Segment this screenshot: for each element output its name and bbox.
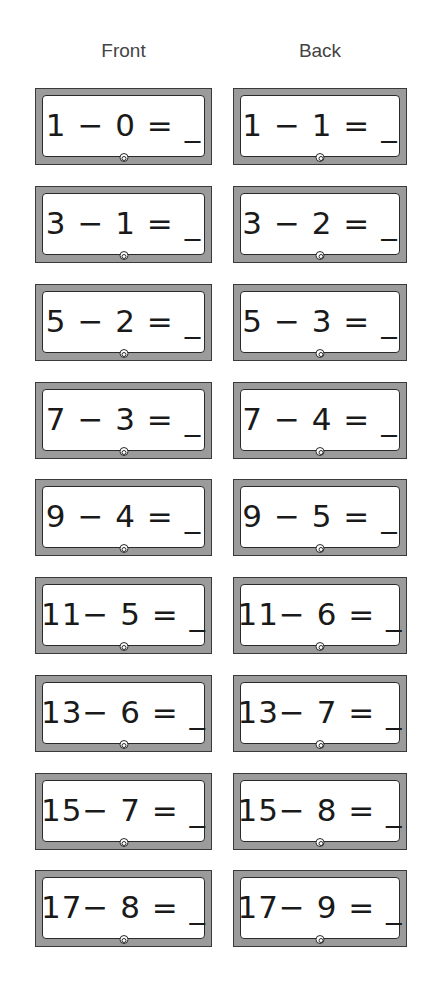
subtraction-equation: 3 − 1 = _ <box>46 205 201 241</box>
subtraction-equation: 1 − 0 = _ <box>46 107 201 143</box>
flashcard-face: 5 − 2 = _ <box>42 291 205 353</box>
flashcard-back: 7 − 4 = _ <box>233 382 407 459</box>
back-column-header: Back <box>233 40 407 62</box>
hole-punch-icon <box>316 838 325 847</box>
flashcard-back: 13− 7 = _ <box>233 675 407 752</box>
flashcard-face: 11− 5 = _ <box>42 584 205 646</box>
subtraction-equation: 11− 5 = _ <box>41 596 206 632</box>
flashcard-face: 3 − 1 = _ <box>42 193 205 255</box>
hole-punch-icon <box>119 642 128 651</box>
flashcard-back: 15− 8 = _ <box>233 773 407 850</box>
flashcard-face: 7 − 3 = _ <box>42 389 205 451</box>
subtraction-equation: 5 − 2 = _ <box>46 303 201 339</box>
subtraction-equation: 15− 8 = _ <box>237 792 402 828</box>
flashcard-back: 11− 6 = _ <box>233 577 407 654</box>
flashcard-face: 9 − 4 = _ <box>42 486 205 548</box>
flashcard-front: 5 − 2 = _ <box>35 284 212 361</box>
subtraction-equation: 1 − 1 = _ <box>242 107 397 143</box>
flashcard-back: 1 − 1 = _ <box>233 88 407 165</box>
subtraction-equation: 9 − 4 = _ <box>46 498 201 534</box>
subtraction-equation: 15− 7 = _ <box>41 792 206 828</box>
flashcard-face: 15− 8 = _ <box>240 780 400 842</box>
flashcard-front: 9 − 4 = _ <box>35 479 212 556</box>
flashcard-front: 17− 8 = _ <box>35 870 212 947</box>
subtraction-equation: 7 − 4 = _ <box>242 401 397 437</box>
hole-punch-icon <box>316 447 325 456</box>
flashcard-face: 3 − 2 = _ <box>240 193 400 255</box>
hole-punch-icon <box>316 251 325 260</box>
flashcard-front: 3 − 1 = _ <box>35 186 212 263</box>
flashcard-face: 1 − 1 = _ <box>240 95 400 157</box>
subtraction-equation: 7 − 3 = _ <box>46 401 201 437</box>
flashcard-face: 13− 7 = _ <box>240 682 400 744</box>
hole-punch-icon <box>316 153 325 162</box>
subtraction-equation: 17− 9 = _ <box>237 889 402 925</box>
flashcard-back: 5 − 3 = _ <box>233 284 407 361</box>
subtraction-equation: 3 − 2 = _ <box>242 205 397 241</box>
hole-punch-icon <box>119 349 128 358</box>
flashcard-face: 9 − 5 = _ <box>240 486 400 548</box>
flashcard-front: 7 − 3 = _ <box>35 382 212 459</box>
hole-punch-icon <box>316 544 325 553</box>
subtraction-equation: 13− 6 = _ <box>41 694 206 730</box>
flashcard-front: 15− 7 = _ <box>35 773 212 850</box>
hole-punch-icon <box>316 349 325 358</box>
front-column-header: Front <box>35 40 212 62</box>
flashcard-face: 7 − 4 = _ <box>240 389 400 451</box>
hole-punch-icon <box>119 740 128 749</box>
flashcard-face: 5 − 3 = _ <box>240 291 400 353</box>
hole-punch-icon <box>119 838 128 847</box>
flashcard-face: 1 − 0 = _ <box>42 95 205 157</box>
flashcard-back: 3 − 2 = _ <box>233 186 407 263</box>
subtraction-equation: 9 − 5 = _ <box>242 498 397 534</box>
hole-punch-icon <box>119 935 128 944</box>
flashcard-front: 1 − 0 = _ <box>35 88 212 165</box>
flashcard-face: 15− 7 = _ <box>42 780 205 842</box>
hole-punch-icon <box>316 740 325 749</box>
subtraction-equation: 17− 8 = _ <box>41 889 206 925</box>
subtraction-equation: 13− 7 = _ <box>237 694 402 730</box>
hole-punch-icon <box>119 544 128 553</box>
hole-punch-icon <box>316 935 325 944</box>
flashcard-face: 17− 8 = _ <box>42 877 205 939</box>
hole-punch-icon <box>316 642 325 651</box>
flashcard-front: 11− 5 = _ <box>35 577 212 654</box>
flashcard-back: 17− 9 = _ <box>233 870 407 947</box>
flashcard-face: 11− 6 = _ <box>240 584 400 646</box>
hole-punch-icon <box>119 447 128 456</box>
flashcard-face: 17− 9 = _ <box>240 877 400 939</box>
hole-punch-icon <box>119 153 128 162</box>
flashcard-back: 9 − 5 = _ <box>233 479 407 556</box>
flashcard-face: 13− 6 = _ <box>42 682 205 744</box>
subtraction-equation: 5 − 3 = _ <box>242 303 397 339</box>
hole-punch-icon <box>119 251 128 260</box>
subtraction-equation: 11− 6 = _ <box>237 596 402 632</box>
flashcard-front: 13− 6 = _ <box>35 675 212 752</box>
